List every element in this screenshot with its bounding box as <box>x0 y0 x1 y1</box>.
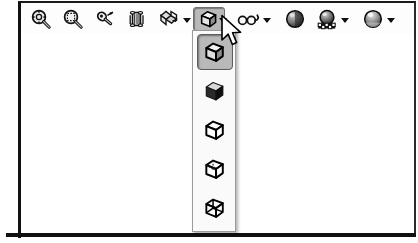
frame-border-left <box>18 2 21 238</box>
toolbar-button-zoom-in-out[interactable] <box>93 7 117 31</box>
cube-dashed-icon <box>202 156 228 182</box>
spectacles-icon <box>237 9 261 29</box>
sphere-checker-icon <box>316 8 338 30</box>
cube-shaded-edges-icon <box>202 39 228 65</box>
toolbar-button-rotate-view[interactable] <box>125 7 149 31</box>
flyout-item-wireframe[interactable] <box>197 190 233 226</box>
dropdown-arrow-apply-scene[interactable] <box>341 16 350 25</box>
magnifier-pan-icon <box>94 8 116 30</box>
cube-outline-icon <box>202 117 228 143</box>
flyout-item-shaded[interactable] <box>197 73 233 109</box>
dropdown-arrow-display-style[interactable] <box>219 16 228 25</box>
cube-shaded-icon <box>202 78 228 104</box>
toolbar-button-apply-scene[interactable] <box>315 7 339 31</box>
frame-border-bottom <box>6 233 416 237</box>
magnifier-fit-icon <box>30 8 52 30</box>
toolbar-button-zoom-to-fit[interactable] <box>29 7 53 31</box>
frame-border-right <box>414 2 416 236</box>
toolbar-button-view-orientation[interactable] <box>157 7 181 31</box>
sphere-shaded-icon <box>284 8 306 30</box>
flyout-item-hidden-lines-visible[interactable] <box>197 151 233 187</box>
rotate-cylinder-icon <box>126 8 148 30</box>
dropdown-arrow-view-orientation[interactable] <box>183 16 192 25</box>
flyout-item-shaded-with-edges[interactable] <box>197 34 233 70</box>
flyout-item-hidden-lines-removed[interactable] <box>197 112 233 148</box>
toolbar-button-edit-appearance[interactable] <box>283 7 307 31</box>
toolbar-button-hide-show-items[interactable] <box>237 7 261 31</box>
toolbar-button-view-settings[interactable] <box>361 7 385 31</box>
cube-wireframe-icon <box>202 195 228 221</box>
magnifier-area-icon <box>62 8 84 30</box>
display-style-flyout-menu <box>192 30 236 232</box>
screenshot-frame <box>0 0 418 243</box>
toolbar-button-zoom-to-area[interactable] <box>61 7 85 31</box>
dropdown-arrow-hide-show-items[interactable] <box>263 16 272 25</box>
unfolded-box-icon <box>158 8 180 30</box>
sphere-gloss-icon <box>362 8 384 30</box>
shaded-cube-edges-icon <box>198 8 220 30</box>
dropdown-arrow-view-settings[interactable] <box>387 16 396 25</box>
